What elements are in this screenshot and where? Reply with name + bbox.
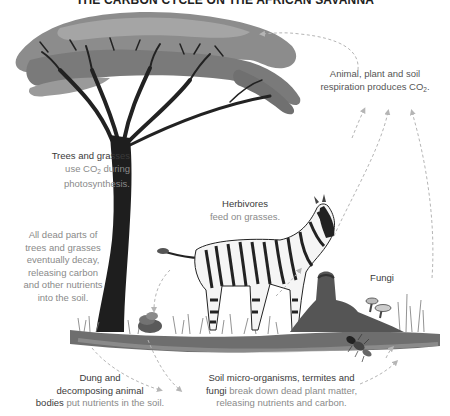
dung-pile xyxy=(138,312,162,333)
soil-text: break down dead plant matter, xyxy=(227,385,357,396)
label-fungi: Fungi xyxy=(362,272,402,285)
arrow-zebra-to-dung xyxy=(154,270,170,310)
respiration-line-1: Animal, plant and soil xyxy=(300,68,450,81)
label-herbivores: Herbivores feed on grasses. xyxy=(200,198,290,223)
label-decay: All dead parts of trees and grasses even… xyxy=(18,229,108,304)
dung-strong: bodies xyxy=(36,397,64,408)
decay-line: All dead parts of xyxy=(18,229,108,242)
dung-text: put nutrients in the soil. xyxy=(64,397,164,408)
label-photosynthesis: Trees and grasses use CO2 during photosy… xyxy=(20,150,130,191)
arrow-soil-to-air xyxy=(412,112,433,278)
soil-line-2: fungi break down dead plant matter, xyxy=(194,385,369,398)
photosynthesis-heading: Trees and grasses xyxy=(20,150,130,163)
decay-line: releasing carbon xyxy=(18,267,108,280)
fungi-text: Fungi xyxy=(370,272,394,283)
arrow-tree-to-air xyxy=(352,110,364,138)
soil xyxy=(70,330,440,353)
herbivores-heading: Herbivores xyxy=(200,198,290,211)
decay-line: and other nutrients xyxy=(18,279,108,292)
fungi xyxy=(366,298,391,318)
label-soil: Soil micro-organisms, termites and fungi… xyxy=(194,372,369,410)
photosynthesis-line-2: use CO2 during xyxy=(20,163,130,179)
respiration-suffix: . xyxy=(427,81,430,92)
soil-line-1: Soil micro-organisms, termites and xyxy=(194,372,369,385)
carbon-cycle-diagram: THE CARBON CYCLE ON THE AFRICAN SAVANNA xyxy=(0,0,450,416)
soil-line-3: releasing nutrients and carbon. xyxy=(194,397,369,410)
photosynthesis-line-3: photosynthesis. xyxy=(20,178,130,191)
herbivores-text: feed on grasses. xyxy=(200,211,290,224)
label-respiration: Animal, plant and soil respiration produ… xyxy=(300,68,450,96)
dung-line-2: decomposing animal xyxy=(10,385,190,398)
photosynthesis-suffix: during xyxy=(101,163,130,174)
zebra-ears xyxy=(314,194,326,204)
respiration-text: respiration produces CO xyxy=(320,81,423,92)
dung-line-1: Dung and xyxy=(10,372,190,385)
arrow-zebra-to-air xyxy=(334,112,388,236)
respiration-line-2: respiration produces CO2. xyxy=(300,81,450,97)
soil-strong: fungi xyxy=(206,385,227,396)
decay-line: eventually decay, xyxy=(18,254,108,267)
photosynthesis-text: use CO xyxy=(65,163,97,174)
decay-line: trees and grasses xyxy=(18,242,108,255)
label-dung: Dung and decomposing animal bodies put n… xyxy=(10,372,190,410)
dung-line-3: bodies put nutrients in the soil. xyxy=(10,397,190,410)
decay-line: into the soil. xyxy=(18,292,108,305)
